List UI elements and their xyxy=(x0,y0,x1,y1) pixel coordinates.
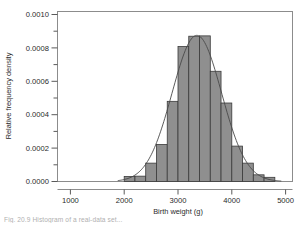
x-tick-label: 1000 xyxy=(62,196,79,205)
x-tick-label: 5000 xyxy=(277,196,294,205)
histogram-bar xyxy=(221,103,232,181)
x-axis-title: Birth weight (g) xyxy=(153,207,203,216)
histogram-bar xyxy=(167,101,178,181)
histogram-chart: 0.0000 0.0002 0.0004 0.0006 0.0008 0.001… xyxy=(0,0,305,229)
figure-container: 0.0000 0.0002 0.0004 0.0006 0.0008 0.001… xyxy=(0,0,305,229)
y-tick-label: 0.0002 xyxy=(26,144,49,153)
x-tick-label: 4000 xyxy=(223,196,240,205)
x-axis-major-ticks xyxy=(70,190,285,195)
y-axis-tick-labels: 0.0000 0.0002 0.0004 0.0006 0.0008 0.001… xyxy=(26,10,49,186)
histogram-bar xyxy=(210,71,221,181)
y-tick-label: 0.0000 xyxy=(26,177,49,186)
y-tick-label: 0.0004 xyxy=(26,110,49,119)
y-axis-minor-ticks xyxy=(54,31,58,165)
y-tick-label: 0.0006 xyxy=(26,77,49,86)
histogram-bar xyxy=(156,144,167,181)
histogram-bar xyxy=(243,163,254,181)
y-tick-label: 0.0008 xyxy=(26,44,49,53)
y-tick-label: 0.0010 xyxy=(26,10,49,19)
x-tick-label: 2000 xyxy=(116,196,133,205)
histogram-bar xyxy=(253,175,264,182)
histogram-bar xyxy=(146,163,157,181)
x-tick-label: 3000 xyxy=(170,196,187,205)
y-axis-title: Relative frequency density xyxy=(4,52,13,139)
histogram-bar xyxy=(189,36,200,181)
histogram-bar xyxy=(200,36,211,182)
histogram-bar xyxy=(135,176,146,181)
x-axis-tick-labels: 1000 2000 3000 4000 5000 xyxy=(62,196,294,205)
figure-caption: Fig. 20.9 Histogram of a real-data set..… xyxy=(4,216,304,223)
